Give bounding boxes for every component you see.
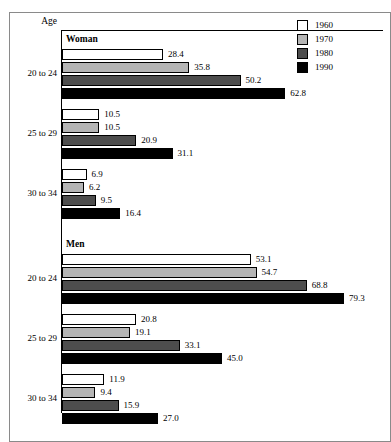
bar-value-label: 45.0 xyxy=(227,353,243,364)
bar-value-label: 6.2 xyxy=(89,182,100,193)
bar-value-label: 19.1 xyxy=(135,327,151,338)
bar xyxy=(62,293,344,304)
group-label: 30 to 34 xyxy=(0,393,57,404)
bar xyxy=(62,182,84,193)
bar xyxy=(62,208,120,219)
bar-value-label: 9.4 xyxy=(100,387,111,398)
bar xyxy=(62,340,180,351)
bar-value-label: 15.9 xyxy=(124,400,140,411)
panel-title-woman: Woman xyxy=(66,33,98,45)
bar xyxy=(62,374,104,385)
legend-item-1980[interactable]: 1980 xyxy=(297,48,359,59)
bar xyxy=(62,49,163,60)
bar xyxy=(62,327,130,338)
legend-swatch-1990 xyxy=(297,62,308,73)
bar xyxy=(62,314,136,325)
bar xyxy=(62,75,241,86)
bar-value-label: 10.5 xyxy=(104,122,120,133)
bar-value-label: 20.8 xyxy=(141,314,157,325)
bar-value-label: 27.0 xyxy=(163,413,179,424)
legend-swatch-1980 xyxy=(297,48,308,59)
bar xyxy=(62,169,87,180)
legend-swatch-1970 xyxy=(297,34,308,45)
bar xyxy=(62,88,285,99)
bar-value-label: 10.5 xyxy=(104,109,120,120)
bar-value-label: 9.5 xyxy=(101,195,112,206)
legend-item-1990[interactable]: 1990 xyxy=(297,62,359,73)
bar xyxy=(62,109,99,120)
bar xyxy=(62,254,251,265)
axis-title-age: Age xyxy=(0,15,57,27)
bar xyxy=(62,62,189,73)
bar-value-label: 28.4 xyxy=(168,49,184,60)
bar xyxy=(62,122,99,133)
bar-value-label: 11.9 xyxy=(109,374,124,385)
legend-label-1980: 1980 xyxy=(315,48,333,59)
bar-value-label: 62.8 xyxy=(290,88,306,99)
group-label: 25 to 29 xyxy=(0,128,57,139)
bar xyxy=(62,400,119,411)
bar-value-label: 54.7 xyxy=(262,267,278,278)
bar xyxy=(62,387,95,398)
legend-label-1970: 1970 xyxy=(315,34,333,45)
group-label: 25 to 29 xyxy=(0,333,57,344)
bar xyxy=(62,135,136,146)
bar-value-label: 35.8 xyxy=(194,62,210,73)
panel-title-men: Men xyxy=(66,238,84,250)
legend-label-1960: 1960 xyxy=(315,20,333,31)
bar xyxy=(62,280,307,291)
legend: 1960197019801990 xyxy=(297,20,359,76)
bar-value-label: 16.4 xyxy=(125,208,141,219)
legend-item-1970[interactable]: 1970 xyxy=(297,34,359,45)
group-label: 20 to 24 xyxy=(0,68,57,79)
bar xyxy=(62,148,173,159)
group-label: 30 to 34 xyxy=(0,188,57,199)
bar xyxy=(62,195,96,206)
bar-value-label: 50.2 xyxy=(246,75,262,86)
bar-value-label: 79.3 xyxy=(349,293,365,304)
bar-value-label: 31.1 xyxy=(178,148,194,159)
bar xyxy=(62,353,222,364)
bar-value-label: 20.9 xyxy=(141,135,157,146)
bar xyxy=(62,267,257,278)
group-label: 20 to 24 xyxy=(0,273,57,284)
legend-swatch-1960 xyxy=(297,20,308,31)
legend-item-1960[interactable]: 1960 xyxy=(297,20,359,31)
legend-label-1990: 1990 xyxy=(315,62,333,73)
bar-value-label: 6.9 xyxy=(92,169,103,180)
bar xyxy=(62,413,158,424)
bar-value-label: 68.8 xyxy=(312,280,328,291)
bar-value-label: 53.1 xyxy=(256,254,272,265)
bar-value-label: 33.1 xyxy=(185,340,201,351)
